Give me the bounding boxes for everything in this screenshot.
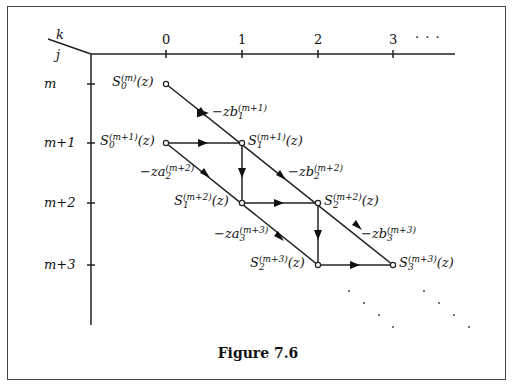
node-S2-m3: S(m+3)2(z) [250,255,305,269]
row-label-m1: m+1 [44,136,76,149]
corner-diagonal [48,39,91,54]
edge-label-b3: −zb(m+3)3 [361,226,416,240]
node-S1-m2: S(m+2)1(z) [174,193,229,207]
column-label-2: 2 [314,33,322,46]
node-S3-m3: S(m+3)3(z) [399,255,454,269]
node-S1-m1: S(m+1)1(z) [248,133,303,147]
figure-caption: Figure 7.6 [0,345,516,361]
row-label-m3: m+3 [44,258,76,271]
diagram-lines [0,0,516,387]
node-S0-m: S(m)0(z) [112,74,153,88]
row-index-label: j [56,48,60,61]
column-index-label: k [56,28,64,41]
column-label-ellipsis: · · · [415,31,441,44]
column-label-1: 1 [238,33,246,46]
column-label-3: 3 [389,33,397,46]
edge-label-a3: −za(m+3)3 [214,226,268,240]
column-label-0: 0 [162,33,170,46]
edge-label-a2: −za(m+2)2 [140,164,194,178]
edge-label-b1: −zb(m+1)1 [212,104,267,118]
edge-label-b2: −zb(m+2)2 [288,164,343,178]
row-label-m: m [44,77,56,90]
row-label-m2: m+2 [44,196,76,209]
node-S0-m1: S(m+1)0(z) [100,133,155,147]
node-S2-m2: S(m+2)2(z) [324,193,379,207]
